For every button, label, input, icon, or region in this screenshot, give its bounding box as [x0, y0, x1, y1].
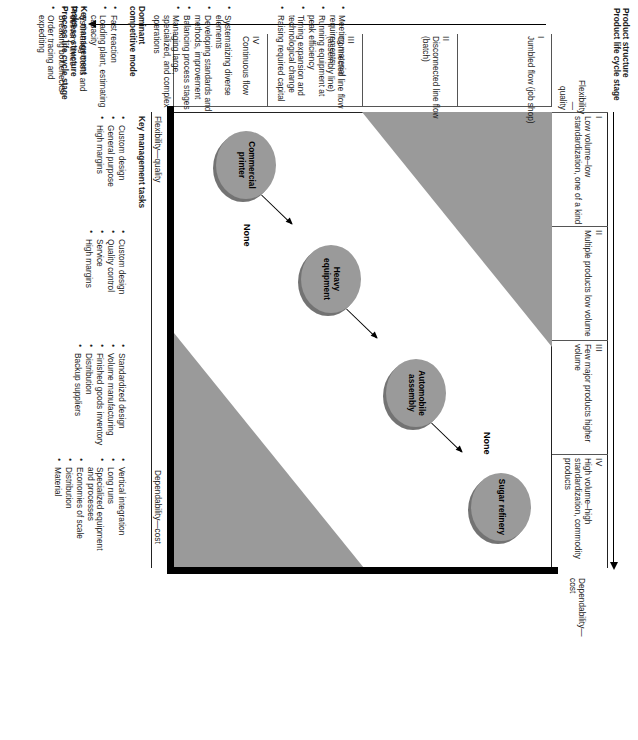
key-tasks-list-1: Fast reaction Loading plant, estimating …	[36, 6, 118, 112]
dominant-mode-item: Economies of scale	[74, 458, 83, 562]
key-tasks-list-2: Systematizing diverse elements Developin…	[152, 6, 232, 112]
none-label-upper-right: None	[482, 432, 492, 455]
dominant-mode-item: Backup suppliers	[73, 344, 82, 448]
product-column-4: IV High volume–high standardization, com…	[563, 458, 604, 570]
key-task-item: Developing standards and methods, improv…	[193, 6, 212, 112]
product-column-4-numeral: IV	[594, 458, 604, 570]
dominant-mode-item: Material	[52, 458, 61, 562]
none-region-lower-left	[174, 333, 364, 568]
corner-label-dependability-cost-bottom: Dependability—cost	[153, 470, 162, 544]
product-column-3-numeral: III	[594, 344, 604, 456]
product-column-2: II Multiple products low volume	[583, 230, 604, 342]
matrix-thick-right-rule	[167, 567, 558, 574]
key-management-tasks-column-1: Fast reaction Loading plant, estimating …	[35, 6, 118, 112]
diagonal-node-2-label: Heavy equipment	[321, 245, 340, 313]
diagonal-node-4: Sugar refinery	[471, 473, 531, 541]
dominant-mode-list-2: Custom design Quality control Service Hi…	[84, 230, 126, 334]
dominant-mode-column-2: Custom design Quality control Service Hi…	[82, 230, 126, 334]
key-task-item: Meeting material requirements	[327, 6, 346, 112]
key-task-item: Running equipment at peak efficiency	[307, 6, 326, 112]
dominant-mode-item: Specialized equipment and processes	[85, 458, 104, 562]
dominant-mode-item: Finished goods inventory	[95, 344, 104, 448]
dominant-mode-item: Distribution	[84, 344, 93, 448]
dominant-mode-list-3: Standardized design Volume manufacturing…	[73, 344, 126, 448]
diagonal-node-3-label: Automobile assembly	[406, 359, 425, 427]
key-tasks-list-3: Meeting material requirements Running eq…	[275, 6, 346, 112]
diagonal-node-4-label: Sugar refinery	[496, 479, 506, 535]
dominant-mode-item: Quality control	[106, 230, 115, 334]
dominant-mode-item: High margins	[84, 230, 93, 334]
key-management-tasks-column-2: Systematizing diverse elements Developin…	[150, 6, 232, 112]
key-task-item: Managing large, specialized, and complex…	[152, 6, 180, 112]
dominant-mode-item: Service	[95, 230, 104, 334]
dominant-mode-item: Custom design	[117, 230, 126, 334]
dominant-mode-item: Distribution	[63, 458, 72, 562]
corner-label-dependability-cost-line1: Dependability—	[577, 578, 586, 642]
dominant-mode-item: Long runs	[106, 458, 115, 562]
dominant-mode-column-4: Vertical integration Long runs Specializ…	[51, 458, 126, 562]
key-task-item: Balancing process stages	[182, 6, 191, 112]
dominant-mode-item: Vertical integration	[117, 458, 126, 562]
product-column-3: III Few major products higher volume	[573, 344, 604, 456]
key-management-tasks-panel: Key management tasks Fast reaction Loadi…	[0, 0, 638, 200]
dominant-mode-item: Standardized design	[117, 344, 126, 448]
product-column-3-label: Few major products higher volume	[573, 344, 593, 442]
key-management-tasks-column-3: Meeting material requirements Running eq…	[274, 6, 346, 112]
none-label-lower-left: None	[242, 224, 252, 247]
diagonal-node-2: Heavy equipment	[301, 245, 361, 313]
key-task-item: Systematizing diverse elements	[213, 6, 232, 112]
dominant-mode-column-3: Standardized design Volume manufacturing…	[71, 344, 126, 448]
key-task-item: Raising required capital	[275, 6, 284, 112]
dominant-mode-list-4: Vertical integration Long runs Specializ…	[52, 458, 126, 562]
diagonal-arrow-3	[431, 423, 462, 453]
key-task-item: Fast reaction	[109, 6, 118, 112]
key-task-item: Timing expansion and technological chang…	[286, 6, 305, 112]
key-task-item: Estimating costs and delivery times	[68, 6, 87, 112]
dominant-mode-item: Volume manufacturing	[106, 344, 115, 448]
key-task-item: Loading plant, estimating capacity	[88, 6, 107, 112]
key-task-item: Order tracing and expediting	[36, 6, 55, 112]
product-column-2-numeral: II	[594, 230, 604, 342]
diagonal-node-3: Automobile assembly	[386, 359, 446, 427]
product-structure-axis-arrow	[610, 562, 618, 570]
product-column-4-label: High volume–high standardization, commod…	[563, 458, 593, 559]
corner-label-dependability-cost-line2: cost	[567, 578, 576, 642]
corner-label-dependability-cost: Dependability— cost	[567, 578, 586, 642]
product-column-2-label: Multiple products low volume	[583, 230, 593, 337]
key-task-item: Breaking bottlenecks	[57, 6, 66, 112]
